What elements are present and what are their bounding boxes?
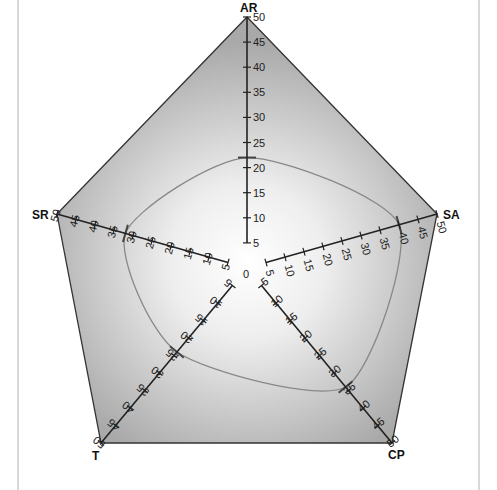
axis-label-t: T xyxy=(92,449,100,463)
tick-label: 30 xyxy=(253,111,265,123)
center-zero-label: 0 xyxy=(243,268,249,280)
radar-chart: 5101520253035404550AR5101520253035404550… xyxy=(0,0,497,490)
tick-label: 45 xyxy=(253,36,265,48)
tick-label: 50 xyxy=(434,220,449,235)
tick-label: 5 xyxy=(253,237,259,249)
tick-label: 25 xyxy=(253,137,265,149)
axis-label-sa: SA xyxy=(443,208,460,222)
axis-label-cp: CP xyxy=(388,448,405,462)
tick-label: 20 xyxy=(253,162,265,174)
tick-label: 35 xyxy=(253,86,265,98)
tick-label: 15 xyxy=(253,187,265,199)
axis-label-ar: AR xyxy=(240,1,258,15)
axis-label-sr: SR xyxy=(32,208,49,222)
tick-label: 40 xyxy=(253,61,265,73)
tick-label: 10 xyxy=(253,212,265,224)
